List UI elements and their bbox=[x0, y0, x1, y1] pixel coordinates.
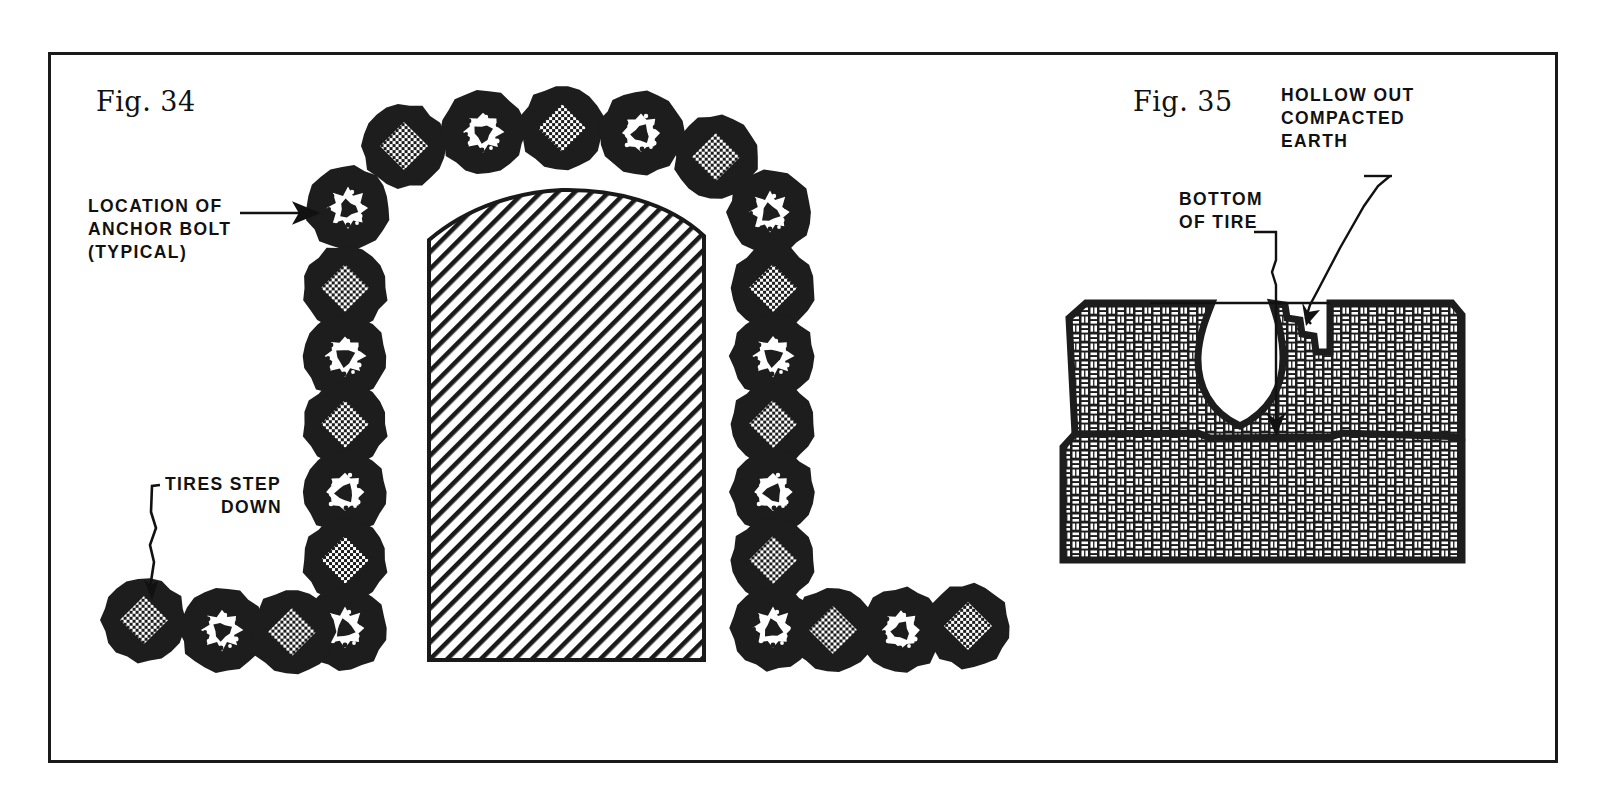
anchor-bolt-speckle bbox=[326, 356, 330, 360]
anchor-bolt-speckle bbox=[358, 347, 363, 352]
anchor-bolt-speckle bbox=[749, 211, 753, 215]
anchor-bolt-speckle bbox=[652, 141, 657, 146]
anchor-bolt-speckle bbox=[353, 504, 357, 508]
anchor-bolt-speckle bbox=[780, 641, 784, 645]
anchor-bolt-speckle bbox=[464, 132, 468, 136]
anchor-bolt-speckle bbox=[752, 198, 757, 203]
anchor-bolt-speckle bbox=[351, 370, 355, 374]
bottom-of-tire-note: BOTTOM OF TIRE bbox=[1179, 188, 1263, 234]
anchor-bolt-speckle bbox=[206, 617, 211, 622]
anchor-bolt-speckle bbox=[756, 480, 761, 485]
anchor-bolt-speckle bbox=[772, 506, 777, 511]
anchor-bolt-speckle bbox=[755, 614, 760, 619]
anchor-bolt-speckle bbox=[337, 610, 341, 614]
anchor-bolt-speckle bbox=[765, 610, 769, 614]
bottom-of-tire-note-line1: BOTTOM bbox=[1179, 189, 1263, 209]
anchor-bolt-speckle bbox=[335, 473, 339, 477]
anchor-bolt-speckle bbox=[768, 227, 773, 232]
anchor-bolt-speckle bbox=[330, 365, 335, 370]
fig34-caption: Fig. 34 bbox=[96, 86, 196, 117]
anchor-bolt-speckle bbox=[644, 114, 648, 118]
anchor-bolt-speckle bbox=[631, 114, 635, 118]
anchor-bolt-speckle bbox=[898, 646, 903, 651]
anchor-bolt-speckle bbox=[763, 473, 767, 477]
anchor-bolt-speckle bbox=[649, 145, 653, 149]
anchor-bolt-speckle bbox=[234, 637, 239, 642]
anchor-bolt-speckle bbox=[892, 610, 896, 614]
anchor-bolt-speckle bbox=[336, 336, 340, 340]
fig34-hatched-block bbox=[429, 190, 704, 660]
anchor-bolt-speckle bbox=[757, 343, 762, 348]
anchor-bolt-speckle bbox=[772, 194, 776, 198]
tires-step-down-note-line2: DOWN bbox=[165, 496, 282, 519]
drawing-sheet: Fig. 34 Fig. 35 LOCATION OF ANCHOR BOLT … bbox=[0, 0, 1609, 810]
anchor-bolt-note: LOCATION OF ANCHOR BOLT (TYPICAL) bbox=[88, 195, 231, 264]
anchor-bolt-speckle bbox=[764, 336, 768, 340]
fig34-group bbox=[100, 86, 1010, 674]
bottom-of-tire-note-line2: OF TIRE bbox=[1179, 212, 1258, 232]
anchor-bolt-speckle bbox=[758, 365, 763, 370]
tire bbox=[926, 583, 1010, 670]
anchor-bolt-speckle bbox=[621, 134, 625, 138]
anchor-bolt-speckle bbox=[777, 225, 781, 229]
anchor-bolt-speckle bbox=[359, 621, 364, 626]
hollow-out-note: HOLLOW OUT COMPACTED EARTH bbox=[1281, 84, 1415, 153]
anchor-bolt-note-line2: ANCHOR BOLT bbox=[88, 219, 231, 239]
anchor-bolt-note-line1: LOCATION OF bbox=[88, 196, 223, 216]
tires-step-down-note: TIRES STEP DOWN bbox=[165, 473, 282, 519]
anchor-bolt-speckle bbox=[781, 504, 785, 508]
anchor-bolt-speckle bbox=[329, 343, 334, 348]
anchor-bolt-speckle bbox=[783, 634, 788, 639]
anchor-bolt-speckle bbox=[787, 621, 792, 626]
anchor-bolt-speckle bbox=[913, 637, 918, 642]
anchor-bolt-speckle bbox=[882, 630, 886, 634]
anchor-bolt-speckle bbox=[484, 115, 488, 119]
tire bbox=[100, 578, 186, 663]
anchor-bolt-speckle bbox=[775, 610, 779, 614]
anchor-bolt-speckle bbox=[762, 194, 766, 198]
hollow-out-note-line1: HOLLOW OUT bbox=[1281, 85, 1415, 105]
anchor-bolt-speckle bbox=[350, 190, 354, 194]
anchor-bolt-speckle bbox=[771, 643, 776, 648]
anchor-bolt-speckle bbox=[779, 370, 783, 374]
anchor-bolt-speckle bbox=[640, 147, 645, 152]
anchor-bolt-speckle bbox=[207, 639, 212, 644]
anchor-bolt-speckle bbox=[346, 223, 351, 228]
anchor-bolt-speckle bbox=[480, 148, 485, 153]
fig35-upper-course bbox=[1069, 303, 1462, 438]
anchor-bolt-speckle bbox=[334, 219, 339, 224]
anchor-bolt-speckle bbox=[344, 506, 349, 511]
anchor-bolt-speckle bbox=[757, 502, 762, 507]
anchor-bolt-speckle bbox=[203, 630, 207, 634]
anchor-bolt-speckle bbox=[624, 121, 629, 126]
anchor-bolt-speckle bbox=[754, 356, 758, 360]
anchor-bolt-speckle bbox=[625, 143, 630, 148]
anchor-bolt-speckle bbox=[785, 484, 790, 489]
anchor-bolt-speckle bbox=[467, 119, 472, 124]
anchor-bolt-speckle bbox=[235, 621, 240, 626]
anchor-bolt-speckle bbox=[774, 339, 778, 343]
anchor-bolt-speckle bbox=[347, 610, 351, 614]
tire bbox=[520, 86, 607, 170]
anchor-bolt-speckle bbox=[776, 473, 780, 477]
anchor-bolt-speckle bbox=[752, 627, 756, 631]
anchor-bolt-speckle bbox=[653, 125, 658, 130]
anchor-bolt-speckle bbox=[496, 123, 501, 128]
hollow-out-note-line2: COMPACTED bbox=[1281, 108, 1405, 128]
anchor-bolt-speckle bbox=[914, 621, 919, 626]
anchor-bolt-note-line3: (TYPICAL) bbox=[88, 242, 187, 262]
anchor-bolt-speckle bbox=[489, 146, 493, 150]
anchor-bolt-speckle bbox=[356, 500, 361, 505]
anchor-bolt-speckle bbox=[885, 617, 890, 622]
anchor-bolt-speckle bbox=[328, 480, 333, 485]
anchor-bolt-speckle bbox=[355, 634, 360, 639]
anchor-bolt-speckle bbox=[759, 639, 764, 644]
anchor-bolt-speckle bbox=[756, 223, 761, 228]
tire bbox=[306, 165, 389, 251]
fig35-caption: Fig. 35 bbox=[1133, 86, 1233, 117]
hollow-out-note-line3: EARTH bbox=[1281, 131, 1348, 151]
anchor-bolt-speckle bbox=[329, 502, 334, 507]
anchor-bolt-speckle bbox=[213, 610, 217, 614]
anchor-bolt-speckle bbox=[219, 646, 224, 651]
anchor-bolt-speckle bbox=[886, 639, 891, 644]
